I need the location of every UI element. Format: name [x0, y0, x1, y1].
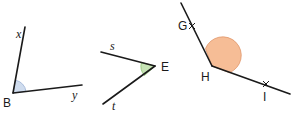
label-B: B	[3, 96, 11, 110]
angle-arc-H	[206, 37, 242, 73]
angle-GHI: G I H	[178, 3, 290, 104]
label-H: H	[201, 70, 210, 84]
angle-sEt: s t E	[101, 39, 169, 113]
label-x: x	[15, 27, 22, 41]
label-G: G	[178, 19, 187, 33]
ray-t	[103, 66, 155, 104]
ray-s	[101, 52, 155, 66]
label-E: E	[161, 60, 169, 74]
label-s: s	[110, 39, 115, 53]
angles-diagram: x y B s t E G I H	[0, 0, 291, 114]
angle-xBy: x y B	[3, 27, 82, 110]
label-y: y	[71, 88, 78, 102]
ray-HG	[181, 3, 212, 66]
label-I: I	[263, 90, 266, 104]
ray-HI	[212, 66, 290, 94]
label-t: t	[112, 99, 116, 113]
